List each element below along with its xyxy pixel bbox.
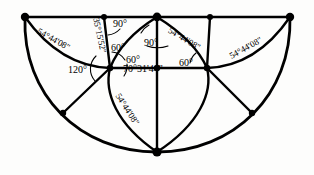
vertex-top-node-b: [207, 14, 213, 20]
vertex-apex-right: [286, 13, 294, 21]
vertex-mid-right: [204, 65, 210, 71]
vertex-lower-left: [60, 110, 66, 116]
vertex-bottom-apex: [152, 147, 161, 156]
vertex-top-node-a: [101, 14, 107, 20]
vertex-mid-left: [107, 65, 113, 71]
vertex-top-center: [153, 13, 162, 22]
diagram-canvas: [0, 0, 314, 175]
vertex-apex-left: [21, 13, 29, 21]
radial-topb-midright: [207, 17, 210, 68]
diagram-figure: 54°44'08" 35°15'52" 54°44'08" 54°44'08" …: [0, 0, 314, 175]
label-angle-60-left-upper: 60°: [111, 43, 125, 53]
vertex-lower-right: [249, 110, 255, 116]
angle-tick-120: [90, 56, 96, 81]
radial-midright-lowerright: [207, 68, 252, 113]
label-angle-90-left: 90°: [113, 19, 127, 29]
label-angle-90-center: 90°: [144, 38, 158, 48]
angle-tick-35: [108, 29, 120, 35]
label-angle-70: 70°31'44": [123, 64, 163, 74]
label-angle-60-right: 60°: [179, 58, 193, 68]
label-angle-120: 120°: [68, 65, 87, 75]
arc-midright-bottom: [157, 68, 208, 152]
